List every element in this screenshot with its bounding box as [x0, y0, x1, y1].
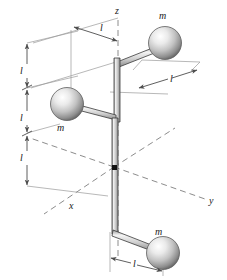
dim-label-vertical-middle: l: [20, 112, 23, 123]
x-axis-line: [44, 167, 114, 214]
dim-label-upper-right: l: [170, 73, 173, 84]
mass-label-top: m: [159, 10, 166, 21]
construction-right-connect-b: [133, 60, 142, 70]
dim-upper-right-arrow-b: [172, 70, 197, 78]
dim-label-bottom-horizontal: l: [133, 258, 136, 269]
mass-label-middle: m: [57, 122, 64, 133]
y-axis-line: [114, 167, 205, 199]
x-axis-right-extension: [114, 128, 175, 167]
construction-scale-mid1: [27, 76, 78, 88]
mass-bottom-sphere: [147, 237, 180, 270]
bent-rod-figure-svg: z y x m m m l l l l l l: [0, 0, 227, 280]
axis-label-y: y: [208, 195, 214, 206]
dim-label-top-horizontal: l: [100, 22, 103, 33]
axis-label-z: z: [114, 5, 119, 16]
axis-label-x: x: [68, 200, 74, 211]
construction-scale-top: [27, 31, 78, 43]
mass-label-bottom: m: [155, 226, 162, 237]
dim-top-horizontal-arrow-b: [96, 34, 117, 41]
dim-bottom-horizontal-arrow-a: [111, 258, 131, 263]
rod-main-vertical: [112, 118, 118, 234]
figure-root: z y x m m m l l l l l l: [0, 0, 227, 280]
mass-middle-sphere: [51, 88, 84, 121]
mass-top-sphere: [149, 27, 182, 60]
dim-upper-right-arrow-a: [139, 79, 168, 88]
dimension-lines: [22, 27, 197, 271]
construction-scale-bottom: [27, 186, 108, 196]
bent-rod: [74, 47, 157, 251]
construction-right-upper: [142, 60, 200, 62]
construction-scale-mid2: [27, 124, 60, 133]
rod-upper-vertical: [114, 58, 120, 122]
dim-label-vertical-lower: l: [20, 152, 23, 163]
y-axis-left-extension: [30, 138, 114, 167]
construction-right-connect-a: [191, 62, 200, 71]
construction-top-left-oblique: [33, 18, 118, 43]
dim-label-vertical-upper: l: [20, 65, 23, 76]
origin-marker: [112, 165, 117, 170]
